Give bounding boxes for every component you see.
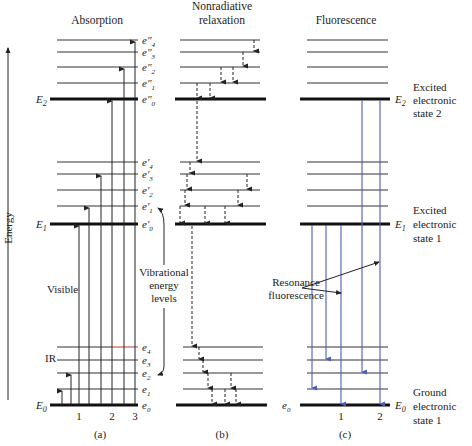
energy-axis-label: Energy	[2, 212, 14, 244]
svg-text:e′2: e′2	[142, 184, 153, 199]
label-ir: IR	[45, 352, 57, 364]
label-visible: Visible	[47, 283, 78, 295]
caption-a: (a)	[94, 428, 107, 441]
svg-text:Vibrational: Vibrational	[139, 266, 188, 278]
svg-text:state 2: state 2	[413, 107, 441, 119]
energy-level-diagram: Energy Absorption Nonradiative relaxatio…	[0, 0, 472, 446]
svg-text:levels: levels	[151, 292, 177, 304]
fluorescence-panel: e0 1 2 (c)	[282, 40, 390, 441]
svg-text:e0: e0	[142, 399, 151, 414]
svg-text:electronic: electronic	[413, 400, 456, 412]
svg-text:e″2: e″2	[142, 61, 155, 76]
svg-text:e2: e2	[142, 367, 151, 382]
svg-text:e′1: e′1	[142, 200, 153, 215]
fluor-number-1: 1	[338, 410, 344, 422]
svg-text:fluorescence: fluorescence	[268, 289, 324, 301]
fluor-label-e0: e0	[282, 399, 291, 414]
svg-text:Ground: Ground	[413, 386, 447, 398]
right-state-labels: E2 E1 E0 Excited electronic state 2 Exci…	[394, 81, 456, 426]
fluorescence-title: Fluorescence	[316, 14, 377, 26]
svg-text:e″1: e″1	[142, 77, 155, 92]
nonradiative-title-line1: Nonradiative	[192, 0, 252, 12]
nonradiative-panel: (b)	[175, 40, 267, 441]
label-E0: E0	[35, 399, 47, 414]
caption-b: (b)	[216, 428, 229, 441]
abs-number-3: 3	[132, 410, 138, 422]
svg-text:E1: E1	[394, 218, 406, 233]
svg-text:Resonance: Resonance	[272, 276, 320, 288]
svg-text:E0: E0	[394, 399, 406, 414]
svg-text:e′0: e′0	[142, 218, 153, 233]
svg-text:e″0: e″0	[142, 93, 155, 108]
abs-number-2: 2	[109, 410, 115, 422]
abs-number-1: 1	[76, 410, 82, 422]
svg-text:Excited: Excited	[413, 204, 447, 216]
svg-text:e1: e1	[142, 383, 150, 398]
label-E2: E2	[35, 93, 47, 108]
svg-text:Excited: Excited	[413, 81, 447, 93]
vibrational-level-labels: e″4 e″3 e″2 e″1 e″0 e′4 e′3 e′2 e′1 e′0 …	[142, 34, 155, 414]
svg-text:state 1: state 1	[413, 414, 441, 426]
nonradiative-title-line2: relaxation	[199, 14, 245, 26]
svg-text:electronic: electronic	[413, 218, 456, 230]
caption-c: (c)	[339, 428, 352, 441]
label-E1: E1	[35, 218, 47, 233]
energy-axis: Energy	[2, 48, 14, 400]
absorption-title: Absorption	[71, 14, 123, 27]
svg-text:electronic: electronic	[413, 94, 456, 106]
svg-text:state 1: state 1	[413, 232, 441, 244]
fluor-number-2: 2	[377, 410, 383, 422]
svg-text:E2: E2	[394, 93, 406, 108]
absorption-panel: E2 E1 E0 IR Visible 1 2 3 (a)	[35, 40, 138, 441]
svg-text:energy: energy	[149, 279, 179, 291]
